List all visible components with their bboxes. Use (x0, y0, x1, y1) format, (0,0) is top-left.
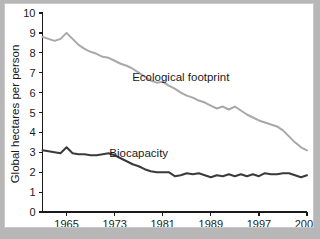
series-label-ecological-footprint: Ecological footprint (132, 71, 230, 83)
y-tick-label: 6 (29, 87, 35, 99)
y-tick-labels: 012345678910 (23, 7, 35, 218)
series-label-biocapacity: Biocapacity (109, 147, 168, 159)
y-tick-label: 1 (29, 186, 35, 198)
x-tick-label: 1981 (150, 218, 174, 227)
x-tick-label: 1965 (54, 218, 78, 227)
series-line-ecological-footprint (43, 33, 308, 150)
line-chart: 012345678910 196519731981198919972005 Gl… (5, 4, 313, 227)
x-axis (43, 212, 308, 216)
y-axis-title: Global hectares per person (9, 45, 21, 184)
y-tick-label: 5 (29, 107, 35, 119)
y-tick-label: 9 (29, 27, 35, 39)
x-tick-labels: 196519731981198919972005 (54, 218, 313, 227)
y-tick-label: 10 (23, 7, 35, 19)
x-tick-label: 1989 (199, 218, 223, 227)
y-tick-label: 8 (29, 47, 35, 59)
x-tick-label: 1997 (247, 218, 271, 227)
screenshot-root: 012345678910 196519731981198919972005 Gl… (0, 0, 320, 239)
y-tick-label: 4 (29, 126, 35, 138)
x-tick-label: 1973 (102, 218, 126, 227)
x-tick-label: 2005 (295, 218, 313, 227)
y-axis (39, 13, 43, 212)
y-tick-label: 0 (29, 206, 35, 218)
y-tick-label: 3 (29, 146, 35, 158)
y-tick-label: 2 (29, 166, 35, 178)
series-line-biocapacity (43, 147, 308, 177)
chart-card: 012345678910 196519731981198919972005 Gl… (4, 3, 314, 228)
y-tick-label: 7 (29, 67, 35, 79)
